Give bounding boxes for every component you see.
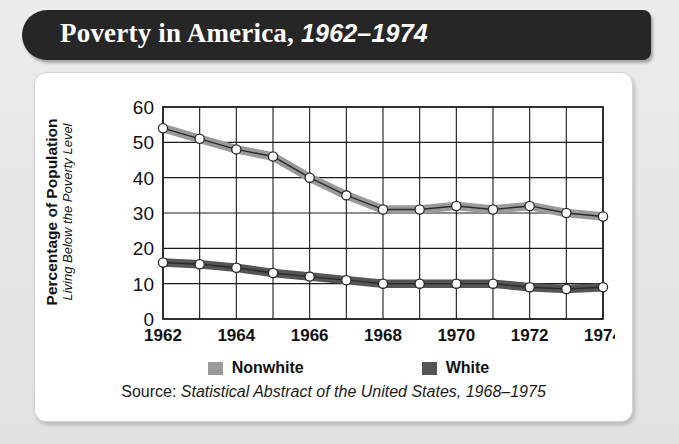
y-axis-title-main: Percentage of Population: [43, 101, 60, 323]
y-tick-label: 20: [133, 238, 154, 259]
legend-swatch-white: [422, 362, 437, 375]
data-point: [488, 279, 497, 288]
page-background: Poverty in America, 1962–1974 Percentage…: [0, 0, 679, 444]
data-point: [378, 279, 387, 288]
data-point: [525, 283, 534, 292]
data-point: [415, 205, 424, 214]
legend-label-white: White: [446, 359, 490, 377]
data-point: [232, 263, 241, 272]
x-tick-label: 1974: [584, 326, 615, 345]
legend-swatch-nonwhite: [208, 362, 223, 375]
data-point: [598, 212, 607, 221]
line-chart: 0102030405060 19621964196619681970197219…: [95, 95, 615, 355]
source-citation: Statistical Abstract of the United State…: [181, 383, 546, 400]
data-point: [158, 124, 167, 133]
title-main: Poverty in America,: [60, 18, 294, 48]
y-tick-label: 10: [133, 274, 154, 295]
y-tick-label: 30: [133, 203, 154, 224]
x-tick-label: 1962: [144, 326, 182, 345]
x-tick-label: 1970: [437, 326, 475, 345]
page-title: Poverty in America, 1962–1974: [60, 18, 428, 49]
data-point: [378, 205, 387, 214]
plot-area: 0102030405060 19621964196619681970197219…: [95, 95, 615, 355]
data-point: [305, 173, 314, 182]
x-tick-label: 1964: [217, 326, 255, 345]
legend-item-white: White: [422, 359, 490, 377]
data-point: [342, 191, 351, 200]
data-point: [195, 260, 204, 269]
data-point: [598, 283, 607, 292]
data-point: [232, 145, 241, 154]
y-tick-label: 40: [133, 168, 154, 189]
data-point: [268, 268, 277, 277]
data-point: [158, 258, 167, 267]
data-point: [525, 201, 534, 210]
y-axis-title: Percentage of Population Living Below th…: [43, 101, 77, 323]
x-tick-label: 1972: [511, 326, 549, 345]
data-point: [452, 201, 461, 210]
x-tick-labels: 1962196419661968197019721974: [144, 326, 615, 345]
y-axis-title-sub: Living Below the Poverty Level: [60, 101, 75, 323]
legend-label-nonwhite: Nonwhite: [232, 359, 304, 377]
data-point: [562, 284, 571, 293]
x-tick-label: 1966: [291, 326, 329, 345]
y-tick-label: 60: [133, 97, 154, 118]
y-tick-label: 50: [133, 132, 154, 153]
data-point: [195, 134, 204, 143]
chart-card: Percentage of Population Living Below th…: [34, 72, 633, 422]
y-tick-labels: 0102030405060: [133, 97, 154, 330]
data-point: [268, 152, 277, 161]
data-point: [488, 205, 497, 214]
source-note: Source: Statistical Abstract of the Unit…: [35, 383, 632, 401]
data-point: [415, 279, 424, 288]
legend-item-nonwhite: Nonwhite: [208, 359, 304, 377]
data-point: [452, 279, 461, 288]
data-point: [342, 276, 351, 285]
data-point: [305, 272, 314, 281]
title-years: 1962–1974: [301, 19, 428, 47]
source-label: Source:: [121, 383, 176, 400]
data-point: [562, 208, 571, 217]
chart-legend: Nonwhite White: [35, 355, 632, 381]
title-banner: Poverty in America, 1962–1974: [22, 10, 651, 60]
x-tick-label: 1968: [364, 326, 402, 345]
